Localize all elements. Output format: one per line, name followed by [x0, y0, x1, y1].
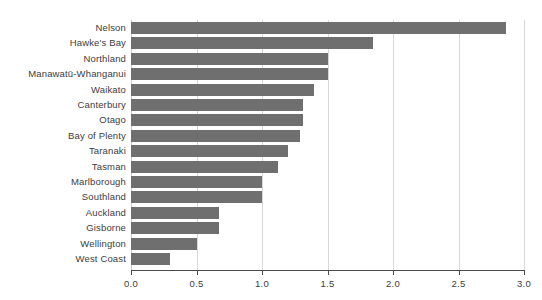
category-label: Gisborne — [2, 222, 126, 234]
category-label: Otago — [2, 114, 126, 126]
bar — [131, 253, 170, 265]
x-tick-label: 2.5 — [452, 278, 466, 289]
category-label: Nelson — [2, 22, 126, 34]
bar-row — [131, 99, 524, 111]
category-label: Hawke's Bay — [2, 37, 126, 49]
category-label: Tasman — [2, 161, 126, 173]
bar — [131, 207, 219, 219]
x-tick-label: 1.5 — [321, 278, 335, 289]
bar-chart: NelsonHawke's BayNorthlandManawatū-Whang… — [0, 0, 542, 300]
plot-area — [131, 20, 524, 270]
bar-row — [131, 191, 524, 203]
gridline-3.0 — [524, 20, 525, 270]
tick-mark-1.5 — [328, 270, 329, 275]
x-tick-label: 2.0 — [386, 278, 400, 289]
bar — [131, 176, 262, 188]
tick-mark-1.0 — [262, 270, 263, 275]
x-tick-label: 3.0 — [517, 278, 531, 289]
bar-row — [131, 130, 524, 142]
category-label: Auckland — [2, 207, 126, 219]
category-label: Waikato — [2, 84, 126, 96]
bar — [131, 99, 303, 111]
bar-row — [131, 114, 524, 126]
bar — [131, 130, 300, 142]
bar-row — [131, 22, 524, 34]
category-label: West Coast — [2, 253, 126, 265]
bar-row — [131, 68, 524, 80]
bar — [131, 145, 288, 157]
bar-row — [131, 37, 524, 49]
bar — [131, 84, 314, 96]
bar-row — [131, 176, 524, 188]
bar-row — [131, 53, 524, 65]
bar — [131, 191, 262, 203]
bar — [131, 161, 278, 173]
x-tick-label: 1.0 — [255, 278, 269, 289]
bar-row — [131, 145, 524, 157]
tick-mark-2.5 — [459, 270, 460, 275]
category-label: Northland — [2, 53, 126, 65]
category-label: Wellington — [2, 238, 126, 250]
bar — [131, 53, 328, 65]
bar — [131, 238, 197, 250]
bar-row — [131, 84, 524, 96]
bar-row — [131, 161, 524, 173]
tick-mark-3.0 — [524, 270, 525, 275]
category-label: Taranaki — [2, 145, 126, 157]
bar-row — [131, 222, 524, 234]
tick-mark-0.0 — [131, 270, 132, 275]
bar-row — [131, 253, 524, 265]
tick-mark-2.0 — [393, 270, 394, 275]
x-tick-label: 0.0 — [124, 278, 138, 289]
category-label: Canterbury — [2, 99, 126, 111]
category-label: Marlborough — [2, 176, 126, 188]
bar — [131, 114, 303, 126]
bar — [131, 222, 219, 234]
bar — [131, 37, 373, 49]
tick-mark-0.5 — [197, 270, 198, 275]
bar — [131, 68, 328, 80]
category-label: Southland — [2, 191, 126, 203]
category-label: Manawatū-Whanganui — [2, 68, 126, 80]
x-tick-label: 0.5 — [190, 278, 204, 289]
bar — [131, 22, 506, 34]
category-label: Bay of Plenty — [2, 130, 126, 142]
bar-row — [131, 238, 524, 250]
bar-row — [131, 207, 524, 219]
category-axis-labels: NelsonHawke's BayNorthlandManawatū-Whang… — [0, 20, 126, 270]
